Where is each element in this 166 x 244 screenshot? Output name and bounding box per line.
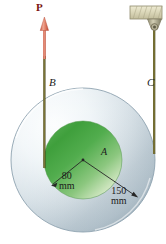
dimension-80mm-unit: mm bbox=[59, 181, 75, 191]
center-label-a: A bbox=[101, 147, 107, 158]
force-label-p: P bbox=[36, 2, 43, 14]
mechanics-figure: P B C A 80 mm 150 mm bbox=[0, 0, 166, 244]
cord-label-c: C bbox=[147, 77, 154, 89]
eye-bolt-icon bbox=[148, 19, 162, 30]
dimension-80mm: 80 mm bbox=[59, 171, 75, 191]
center-point-a bbox=[82, 159, 85, 162]
cord-c bbox=[153, 28, 155, 154]
cord-label-b: B bbox=[49, 77, 56, 89]
ceiling-support-icon bbox=[130, 6, 162, 19]
figure-canvas bbox=[0, 0, 166, 244]
up-arrow-icon bbox=[40, 17, 48, 59]
cord-b bbox=[43, 56, 45, 168]
dimension-150mm-unit: mm bbox=[111, 196, 127, 206]
dimension-150mm: 150 mm bbox=[111, 186, 127, 206]
